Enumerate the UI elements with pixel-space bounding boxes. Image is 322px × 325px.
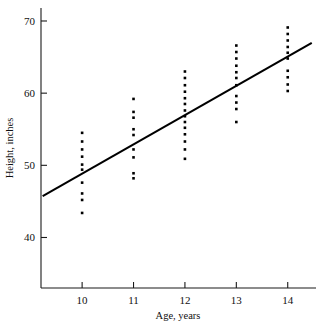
- data-point: [184, 109, 187, 112]
- data-point: [184, 121, 187, 124]
- data-point: [184, 103, 187, 106]
- data-point: [132, 172, 135, 175]
- data-point: [132, 134, 135, 137]
- data-point: [184, 84, 187, 87]
- y-tick-label-60: 60: [24, 87, 36, 99]
- data-point: [184, 126, 187, 129]
- data-point: [235, 95, 238, 98]
- x-tick-label-12: 12: [179, 294, 190, 306]
- data-point: [81, 163, 84, 166]
- data-point: [184, 90, 187, 93]
- data-point: [184, 97, 187, 100]
- data-point: [81, 148, 84, 151]
- data-point: [132, 128, 135, 131]
- data-point: [81, 212, 84, 215]
- scatter-plot-figure: 40506070 1011121314 Age, years Height, i…: [0, 0, 322, 325]
- data-point: [184, 158, 187, 161]
- data-point: [184, 148, 187, 151]
- data-point: [235, 51, 238, 54]
- data-point: [132, 111, 135, 114]
- x-tick-label-10: 10: [77, 294, 89, 306]
- data-point: [81, 199, 84, 202]
- data-point: [184, 77, 187, 80]
- regression-line: [44, 43, 311, 195]
- data-point: [235, 108, 238, 111]
- data-point: [286, 39, 289, 42]
- data-point: [184, 140, 187, 143]
- data-point: [235, 101, 238, 104]
- y-tick-label-50: 50: [24, 159, 36, 171]
- x-tick-label-14: 14: [282, 294, 294, 306]
- data-point: [235, 71, 238, 74]
- y-axis-ticks: 40506070: [24, 15, 47, 243]
- data-point: [132, 177, 135, 180]
- x-tick-label-11: 11: [128, 294, 139, 306]
- x-axis-title: Age, years: [156, 310, 201, 321]
- y-tick-label-70: 70: [24, 15, 36, 27]
- data-point: [286, 76, 289, 79]
- data-point: [132, 116, 135, 119]
- data-point: [286, 33, 289, 36]
- x-axis-ticks: 1011121314: [77, 282, 294, 306]
- data-point: [81, 155, 84, 158]
- data-point: [286, 26, 289, 29]
- data-point: [81, 132, 84, 135]
- data-point: [286, 51, 289, 54]
- data-point: [235, 121, 238, 124]
- data-point: [81, 168, 84, 171]
- y-axis-title: Height, inches: [4, 118, 15, 179]
- y-tick-label-40: 40: [24, 231, 36, 243]
- data-point: [184, 70, 187, 73]
- data-point: [81, 181, 84, 184]
- data-point: [235, 64, 238, 67]
- x-tick-label-13: 13: [231, 294, 243, 306]
- data-point: [286, 46, 289, 49]
- data-points: [81, 26, 289, 214]
- data-point: [286, 83, 289, 86]
- data-point: [184, 133, 187, 136]
- data-point: [132, 98, 135, 101]
- data-point: [132, 148, 135, 151]
- data-point: [81, 192, 84, 195]
- data-point: [235, 77, 238, 80]
- data-point: [286, 69, 289, 72]
- data-point: [286, 90, 289, 93]
- plot-canvas: 40506070 1011121314 Age, years Height, i…: [0, 0, 322, 325]
- data-point: [132, 156, 135, 159]
- data-point: [81, 140, 84, 143]
- data-point: [235, 44, 238, 47]
- axes: [41, 8, 316, 288]
- data-point: [235, 57, 238, 60]
